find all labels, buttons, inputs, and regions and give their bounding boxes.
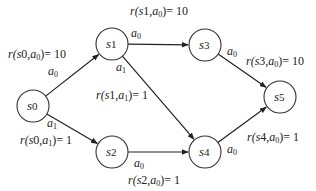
state-node-s1: s1 [96,28,128,60]
edge-s1-s3 [128,44,188,45]
state-label-s5: s5 [274,89,285,104]
action-label-s1-s4: a1 [116,60,126,75]
state-label-s2: s2 [106,144,117,159]
reward-label-s0-s1: r(s0,a0)= 10 [8,47,66,62]
action-label-s2-s4: a0 [134,156,144,171]
state-node-s4: s4 [189,136,221,168]
state-label-s4: s4 [199,144,210,159]
state-node-s2: s2 [96,136,128,168]
action-label-s3-s5: a0 [227,44,237,59]
reward-label-s1-s3: r(s1,a0)= 10 [130,4,188,19]
mdp-diagram: s0s1s2s3s4s5 a0r(s0,a0)= 10a1r(s0,a1)= 1… [0,0,316,191]
action-label-s0-s1: a0 [48,64,58,79]
state-node-s3: s3 [189,29,221,61]
state-node-s5: s5 [264,81,296,113]
action-label-s4-s5: a0 [227,142,237,157]
state-label-s3: s3 [199,37,210,52]
reward-label-s1-s4: r(s1,a1)= 1 [96,88,148,103]
reward-label-s4-s5: r(s4,a0)= 1 [247,130,299,145]
state-node-s0: s0 [17,90,49,122]
state-label-s0: s0 [27,98,38,113]
reward-label-s3-s5: r(s3,a0)= 10 [246,54,304,69]
state-label-s1: s1 [106,36,117,51]
action-label-s0-s2: a1 [47,116,57,131]
edges [46,44,267,152]
reward-label-s0-s2: r(s0,a1)= 1 [20,133,72,148]
action-label-s1-s3: a0 [131,26,141,41]
reward-label-s2-s4: r(s2,a0)= 1 [128,173,180,188]
